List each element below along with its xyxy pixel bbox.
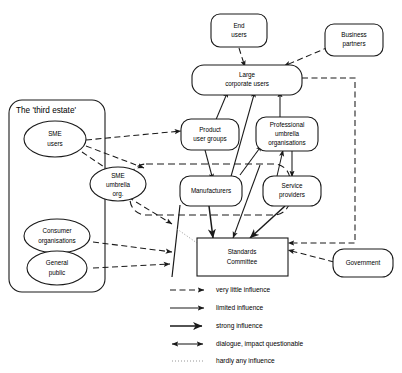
product-user-groups-label-line1: Product <box>199 126 221 133</box>
edge-product-user-groups-to-large-corporate <box>215 91 228 122</box>
professional-umbrella-label-line2: umbrella <box>275 130 300 137</box>
business-partners-label-line1: Business <box>341 31 367 38</box>
end-users-label-line1: End <box>233 22 245 29</box>
legend-item-very-little: very little influence <box>170 286 271 294</box>
node-sme-umbrella-org[interactable]: SME umbrella org. <box>90 167 146 201</box>
edge-barrier-to-standards-committee-dotted <box>177 229 197 243</box>
end-users-label-line2: users <box>231 31 246 38</box>
standards-committee-label-line1: Standards <box>228 248 257 255</box>
legend-dialogue-label: dialogue, impact questionable <box>216 340 304 348</box>
large-corporate-users-label-line1: Large <box>239 71 256 79</box>
influence-barrier-line <box>172 205 180 277</box>
consumer-organisations-label-line1: Consumer <box>42 227 71 234</box>
node-general-public[interactable]: General public <box>27 251 87 285</box>
node-business-partners[interactable]: Business partners <box>325 24 383 56</box>
edge-manufacturers-to-standards-committee <box>209 206 213 238</box>
sme-users-label-line2: users <box>47 140 62 147</box>
consumer-organisations-label-line2: organisations <box>38 237 75 245</box>
general-public-label-line2: public <box>49 269 65 277</box>
node-standards-committee[interactable]: Standards Committee <box>197 238 288 276</box>
service-providers-label-line2: providers <box>279 191 305 199</box>
node-product-user-groups[interactable]: Product user groups <box>181 119 239 150</box>
node-end-users[interactable]: End users <box>211 14 267 47</box>
business-partners-label-line2: partners <box>342 40 365 48</box>
edge-manufacturers-to-professional-umbrella <box>240 145 262 175</box>
professional-umbrella-label-line3: organisations <box>268 139 305 147</box>
edge-service-providers-to-standards-committee <box>250 206 285 238</box>
legend-very-little-label: very little influence <box>216 286 271 294</box>
node-manufacturers[interactable]: Manufacturers <box>180 176 242 206</box>
sme-umbrella-org-label-line2: umbrella <box>106 181 131 188</box>
node-professional-umbrella-organisations[interactable]: Professional umbrella organisations <box>256 117 318 151</box>
legend-strong-label: strong influence <box>216 322 263 330</box>
legend-item-strong: strong influence <box>170 322 263 330</box>
node-consumer-organisations[interactable]: Consumer organisations <box>24 219 90 253</box>
manufacturers-label-line1: Manufacturers <box>191 187 231 194</box>
node-large-corporate-users[interactable]: Large corporate users <box>192 65 302 95</box>
diagram-canvas: The 'third estate' <box>0 0 402 373</box>
sme-umbrella-org-label-line1: SME <box>111 172 125 179</box>
legend-limited-label: limited influence <box>216 304 264 311</box>
large-corporate-users-label-line2: corporate users <box>225 80 269 88</box>
edge-large-corporate-to-standards-committee <box>288 78 355 243</box>
legend-item-hardly-any: hardly any influence <box>172 357 275 365</box>
edge-service-providers-to-professional-umbrella <box>277 150 283 176</box>
node-sme-users[interactable]: SME users <box>24 121 86 157</box>
edge-sme-users-to-industry-cluster <box>86 146 144 168</box>
sme-users-label-line1: SME <box>48 130 62 137</box>
third-estate-label: The 'third estate' <box>16 106 76 115</box>
legend: very little influence limited influence … <box>170 286 304 365</box>
edge-business-partners-to-large-corporate <box>284 47 329 66</box>
node-government[interactable]: Government <box>333 249 393 277</box>
government-label-line1: Government <box>346 259 381 266</box>
edge-government-to-standards-committee <box>288 250 334 262</box>
edge-sme-users-to-product-user-groups <box>86 131 181 140</box>
edge-end-users-to-large-corporate <box>239 48 245 67</box>
professional-umbrella-label-line1: Professional <box>270 121 305 128</box>
edge-sme-umbrella-org-to-barrier <box>128 197 172 224</box>
general-public-label-line1: General <box>46 259 68 266</box>
product-user-groups-label-line2: user groups <box>193 135 226 143</box>
service-providers-label-line1: Service <box>282 182 303 189</box>
legend-item-limited: limited influence <box>170 304 264 311</box>
legend-item-dialogue: dialogue, impact questionable <box>172 340 304 348</box>
node-service-providers[interactable]: Service providers <box>263 176 321 206</box>
legend-hardly-any-label: hardly any influence <box>216 357 275 365</box>
influence-diagram: The 'third estate' <box>0 0 402 373</box>
sme-umbrella-org-label-line3: org. <box>113 190 124 198</box>
standards-committee-label-line2: Committee <box>227 258 258 265</box>
